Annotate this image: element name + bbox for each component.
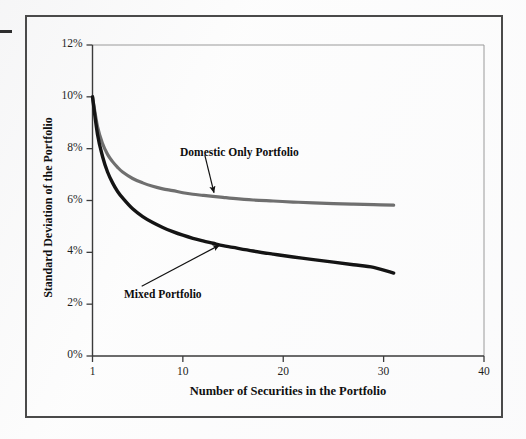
series-lines: [93, 97, 394, 273]
annotation-arrow-1: [142, 245, 220, 286]
x-axis-title: Number of Securities in the Portfolio: [92, 384, 484, 399]
annotation-arrow-0: [205, 155, 214, 193]
figure-page: 0%2%4%6%8%10%12% 110203040 Standard Devi…: [0, 0, 526, 439]
annotation-arrows: [142, 155, 220, 286]
x-tick-label: 10: [163, 365, 203, 377]
series-line-mixed-portfolio: [93, 97, 394, 273]
y-tick-label: 12%: [43, 37, 83, 49]
tick-marks: [87, 45, 485, 362]
x-tick-label: 1: [73, 365, 113, 377]
x-tick-label: 20: [263, 365, 303, 377]
x-tick-label: 30: [364, 365, 404, 377]
annotation-label-domestic-only-portfolio: Domestic Only Portfolio: [180, 146, 299, 158]
y-tick-label: 0%: [43, 348, 83, 360]
annotation-label-mixed-portfolio: Mixed Portfolio: [124, 288, 202, 300]
x-tick-label: 40: [464, 365, 504, 377]
y-axis-title: Standard Deviation of the Portfolio: [41, 98, 56, 318]
